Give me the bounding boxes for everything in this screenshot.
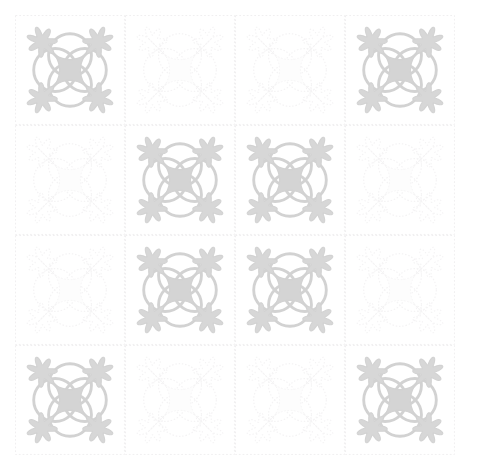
quilt-block-r2-c2 [235, 235, 345, 345]
reel-center [275, 55, 305, 85]
reel-center [55, 385, 85, 415]
quilt-block-r0-c3 [345, 15, 455, 125]
quilt-block-r0-c1 [125, 15, 235, 125]
reel-center [385, 165, 415, 195]
reel-center [55, 165, 85, 195]
reel-center [55, 275, 85, 305]
quilt-block-r3-c1 [125, 345, 235, 455]
quilt-block-r1-c1 [125, 125, 235, 235]
quilt-grid [15, 15, 455, 448]
reel-center [275, 385, 305, 415]
reel-center [385, 55, 415, 85]
reel-center [55, 55, 85, 85]
reel-center [275, 165, 305, 195]
quilt-block-r1-c2 [235, 125, 345, 235]
quilt-block-r2-c1 [125, 235, 235, 345]
quilt-block-r3-c3 [345, 345, 455, 455]
reel-center [275, 275, 305, 305]
quilt-block-r3-c2 [235, 345, 345, 455]
quilt-block-r3-c0 [15, 345, 125, 455]
quilt-block-r1-c0 [15, 125, 125, 235]
reel-center [385, 385, 415, 415]
quilt-block-r0-c0 [15, 15, 125, 125]
reel-center [385, 275, 415, 305]
quilt-canvas [0, 0, 479, 460]
reel-center [165, 165, 195, 195]
reel-center [165, 385, 195, 415]
quilt-block-r0-c2 [235, 15, 345, 125]
reel-center [165, 55, 195, 85]
quilt-block-r1-c3 [345, 125, 455, 235]
quilt-block-r2-c0 [15, 235, 125, 345]
quilt-block-r2-c3 [345, 235, 455, 345]
reel-center [165, 275, 195, 305]
